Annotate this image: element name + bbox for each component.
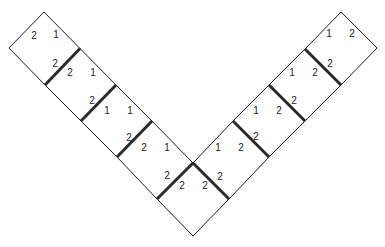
tile-diagram: 2 1 2 2 1 2 1 1 2 2 1 2 2 2 2 1 2 2 1 2 … bbox=[0, 0, 385, 247]
label-R4-a: 1 bbox=[215, 142, 221, 153]
label-L2-b: 2 bbox=[67, 67, 73, 78]
label-L2-c: 1 bbox=[90, 67, 96, 78]
thick-edge-B-R4 bbox=[193, 163, 229, 199]
thick-edge-L1-L2 bbox=[45, 49, 80, 86]
label-L4-c: 1 bbox=[164, 142, 170, 153]
label-R3-c: 2 bbox=[291, 95, 297, 106]
label-R4-c: 2 bbox=[253, 131, 259, 142]
thick-edge-R3-R2 bbox=[269, 85, 305, 121]
label-L2-a: 2 bbox=[52, 58, 58, 69]
label-R2-b: 2 bbox=[312, 67, 318, 78]
label-L3-a: 2 bbox=[89, 95, 95, 106]
label-R2-c: 2 bbox=[327, 58, 333, 69]
label-R2-a: 1 bbox=[289, 67, 295, 78]
thick-edge-L2-L3 bbox=[81, 85, 116, 121]
label-R3-b: 2 bbox=[276, 105, 282, 116]
label-L1-b: 1 bbox=[53, 29, 59, 40]
label-L4-b: 2 bbox=[141, 142, 147, 153]
label-B-a: 2 bbox=[164, 170, 170, 181]
thick-edge-L4-B bbox=[157, 163, 193, 199]
label-L1-a: 2 bbox=[31, 30, 37, 41]
label-B-b: 2 bbox=[179, 180, 185, 191]
label-B-d: 2 bbox=[217, 171, 223, 182]
thick-edge-R2-R1 bbox=[305, 49, 341, 85]
label-R1-a: 1 bbox=[326, 28, 332, 39]
label-L3-c: 1 bbox=[127, 105, 133, 116]
label-R1-b: 2 bbox=[349, 28, 355, 39]
label-L3-b: 1 bbox=[104, 105, 110, 116]
label-R4-b: 2 bbox=[238, 142, 244, 153]
label-R3-a: 1 bbox=[253, 105, 259, 116]
label-B-c: 2 bbox=[202, 180, 208, 191]
label-L4-a: 2 bbox=[126, 132, 132, 143]
